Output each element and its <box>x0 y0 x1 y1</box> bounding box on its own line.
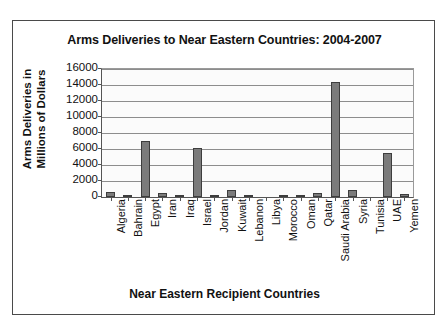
x-axis-tick-mark <box>162 197 163 201</box>
x-axis-tick-mark <box>180 197 181 201</box>
x-axis-category-label: Tunisia <box>374 199 386 294</box>
gridline <box>102 133 413 134</box>
x-axis-tick-mark <box>232 197 233 201</box>
x-axis-tick-mark <box>335 197 336 201</box>
y-axis-tick-label: 4000 <box>46 157 98 169</box>
x-axis-tick-mark <box>111 197 112 201</box>
y-axis-tick-labels: 0200040006000800010000120001400016000 <box>43 68 98 197</box>
y-axis-tick-label: 6000 <box>46 141 98 153</box>
x-axis-category-label: Kuwait <box>236 199 248 294</box>
gridline <box>102 117 413 118</box>
x-axis-category-label: Egypt <box>149 199 161 294</box>
x-axis-category-label: Yemen <box>408 199 420 294</box>
gridline <box>102 69 413 70</box>
x-axis-category-label: Iran <box>166 199 178 294</box>
x-axis-tick-mark <box>145 197 146 201</box>
y-axis-tick-label: 12000 <box>46 93 98 105</box>
plot-wrapper <box>101 68 412 197</box>
plot-area <box>101 68 414 198</box>
x-axis-category-label: Oman <box>305 199 317 294</box>
x-axis-tick-mark <box>404 197 405 201</box>
x-axis-tick-mark <box>214 197 215 201</box>
x-axis-category-label: Saudi Arabia <box>339 199 351 294</box>
chart-title: Arms Deliveries to Near Eastern Countrie… <box>13 33 436 47</box>
x-axis-category-label: Lebanon <box>253 199 265 294</box>
bar <box>383 153 392 197</box>
x-axis-category-label: Israel <box>201 199 213 294</box>
y-axis-tick-label: 0 <box>46 189 98 201</box>
y-axis-tick-label: 8000 <box>46 125 98 137</box>
gridline <box>102 85 413 86</box>
x-axis-category-label: Morocco <box>287 199 299 294</box>
x-axis-tick-mark <box>318 197 319 201</box>
x-axis-title: Near Eastern Recipient Countries <box>13 287 436 301</box>
x-axis-tick-mark <box>197 197 198 201</box>
y-axis-title-line1: Arms Deliveries in <box>21 54 35 184</box>
x-axis-category-label: Bahrain <box>132 199 144 294</box>
x-axis-tick-mark <box>387 197 388 201</box>
y-axis-tick-label: 16000 <box>46 61 98 73</box>
x-axis-tick-mark <box>370 197 371 201</box>
bar <box>193 148 202 197</box>
gridline <box>102 101 413 102</box>
x-axis-tick-mark <box>353 197 354 201</box>
x-axis-tick-mark <box>128 197 129 201</box>
x-axis-tick-mark <box>283 197 284 201</box>
bar <box>348 190 357 197</box>
y-axis-tick-label: 10000 <box>46 109 98 121</box>
x-axis-category-label: Algeria <box>115 199 127 294</box>
chart-figure: Arms Deliveries to Near Eastern Countrie… <box>12 20 435 315</box>
x-axis-category-label: Qatar <box>322 199 334 294</box>
x-axis-tick-labels: AlgeriaBahrainEgyptIranIraqIsraelJordanK… <box>101 202 414 297</box>
x-axis-category-label: Jordan <box>218 199 230 294</box>
y-axis-tick-label: 14000 <box>46 77 98 89</box>
y-axis-tick-label: 2000 <box>46 173 98 185</box>
x-axis-tick-mark <box>266 197 267 201</box>
bar <box>331 82 340 197</box>
bar <box>141 141 150 197</box>
x-axis-category-label: Libya <box>270 199 282 294</box>
x-axis-category-label: Iraq <box>184 199 196 294</box>
x-axis-tick-mark <box>301 197 302 201</box>
x-axis-category-label: Syria <box>357 199 369 294</box>
x-axis-category-label: UAE <box>391 199 403 294</box>
x-axis-tick-mark <box>249 197 250 201</box>
bar <box>227 190 236 197</box>
